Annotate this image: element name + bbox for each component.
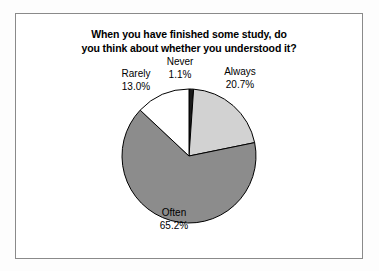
chart-frame: When you have finished some study, do yo… bbox=[15, 13, 363, 259]
pie-label-never: Never 1.1% bbox=[155, 56, 205, 81]
pie-slice-group bbox=[122, 89, 256, 223]
pie-label-often-value: 65.2% bbox=[144, 220, 204, 233]
pie-label-never-value: 1.1% bbox=[155, 69, 205, 82]
pie-label-always-name: Always bbox=[210, 66, 270, 79]
pie-label-never-name: Never bbox=[155, 56, 205, 69]
pie-label-always-value: 20.7% bbox=[210, 79, 270, 92]
pie-label-rarely-value: 13.0% bbox=[108, 81, 164, 94]
pie-label-often: Often 65.2% bbox=[144, 207, 204, 232]
figure-canvas: When you have finished some study, do yo… bbox=[0, 0, 379, 271]
pie-label-often-name: Often bbox=[144, 207, 204, 220]
pie-label-always: Always 20.7% bbox=[210, 66, 270, 91]
pie-chart: Rarely 13.0% Never 1.1% Always 20.7% Oft… bbox=[16, 14, 364, 260]
